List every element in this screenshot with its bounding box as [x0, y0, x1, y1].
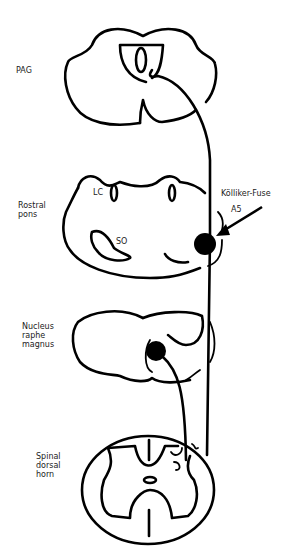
pag-section — [65, 29, 216, 125]
nrm-section — [73, 311, 215, 382]
label-pag: PAG — [16, 66, 32, 75]
label-nrm: Nucleus raphe magnus — [22, 322, 54, 349]
label-a5: A5 — [231, 205, 242, 214]
label-rostral-pons: Rostral pons — [18, 201, 46, 219]
kolliker-fuse-a5-cell-body — [194, 233, 216, 255]
arrow — [223, 207, 262, 231]
spinal-cord-section — [82, 436, 214, 544]
label-lc: LC — [93, 188, 103, 197]
label-spinal-dorsal-horn: Spinal dorsal horn — [36, 452, 61, 479]
label-kolliker-fuse: Kölliker-Fuse — [221, 189, 271, 198]
pag-descending-axon — [150, 70, 210, 238]
rostral-pons-section — [63, 176, 222, 278]
label-so: SO — [116, 237, 127, 246]
